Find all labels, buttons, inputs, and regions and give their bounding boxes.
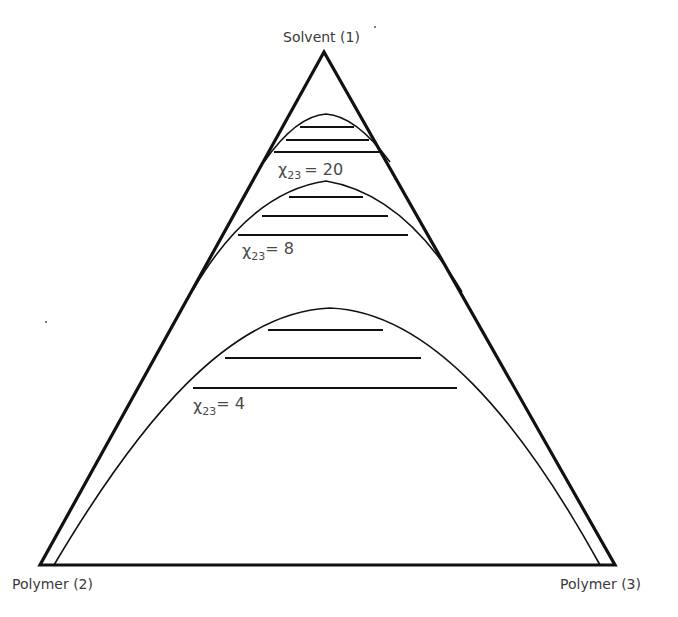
binodal-curve-chi4 bbox=[54, 308, 600, 565]
vertex-label-polymer-2: Polymer (2) bbox=[12, 576, 93, 592]
vertex-label-polymer-3: Polymer (3) bbox=[560, 576, 641, 592]
vertex-label-solvent: Solvent (1) bbox=[283, 29, 360, 45]
scan-speck bbox=[45, 321, 47, 323]
curve-label-chi20: χ23= 20 bbox=[278, 160, 343, 182]
binodal-chi4 bbox=[54, 308, 600, 565]
binodal-chi8 bbox=[193, 181, 462, 292]
curve-label-chi8: χ23= 8 bbox=[242, 239, 294, 263]
ternary-phase-diagram: Solvent (1) Polymer (2) Polymer (3) χ23=… bbox=[0, 0, 678, 617]
scan-speck bbox=[374, 26, 376, 28]
curve-label-chi4: χ23= 4 bbox=[193, 394, 245, 418]
